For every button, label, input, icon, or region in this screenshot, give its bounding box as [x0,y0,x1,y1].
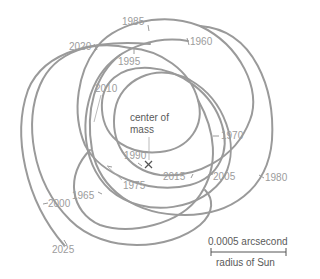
year-label-1965: 1965 [72,190,94,201]
year-label-2005: 2005 [213,171,235,182]
center-label-line1: center of [130,112,169,124]
year-label-1995: 1995 [118,56,140,67]
year-label-1970: 1970 [221,130,243,141]
year-label-2010: 2010 [95,83,117,94]
year-label-1980: 1980 [265,172,287,183]
year-label-2015: 2015 [163,171,185,182]
leader-2010 [94,95,101,122]
scale-bottom-label: radius of Sun [216,257,275,269]
center-label-line2: mass [130,124,169,136]
leader-1975 [108,167,122,180]
scale-top-label: 0.0005 arcsecond [208,236,288,248]
year-label-1960: 1960 [190,36,212,47]
scale-bar [211,248,286,256]
year-label-2025: 2025 [52,244,74,255]
center-of-mass-label: center of mass [130,112,169,136]
year-label-2000: 2000 [48,198,70,209]
year-label-1975: 1975 [123,180,145,191]
year-label-1985: 1985 [122,16,144,27]
year-label-2020: 2020 [69,41,91,52]
year-label-1990: 1990 [124,150,146,161]
center-of-mass-marker [145,161,152,168]
